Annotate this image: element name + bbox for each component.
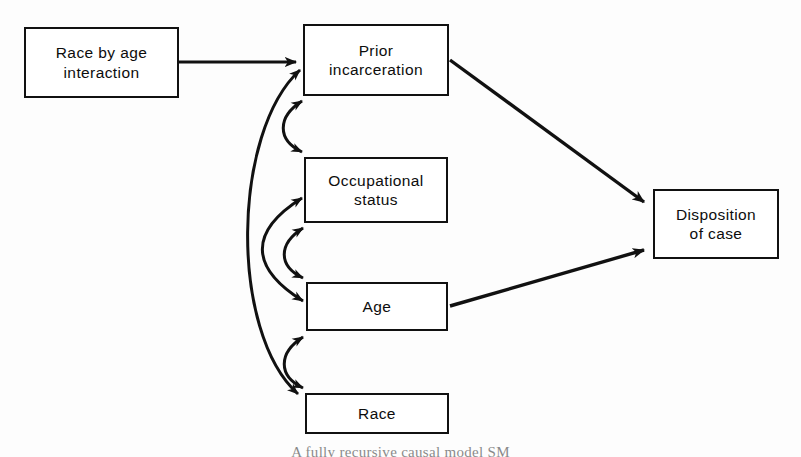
node-label-prior-incarceration: Prior incarceration [325,41,427,80]
figure-caption: A fully recursive causal model SM [0,441,801,457]
node-race-by-age-interaction[interactable]: Race by age interaction [24,27,179,98]
node-label-age: Age [359,297,396,316]
node-label-race-by-age-interaction: Race by age interaction [52,43,151,82]
figure-root: Race by age interaction Prior incarcerat… [0,0,801,457]
correlation-edges-group [248,70,303,394]
node-race[interactable]: Race [305,393,449,434]
node-disposition-of-case[interactable]: Disposition of case [653,189,779,259]
node-prior-incarceration[interactable]: Prior incarceration [303,24,449,96]
node-occupational-status[interactable]: Occupational status [304,157,448,223]
figure-caption-text: A fully recursive causal model SM [0,444,801,457]
node-label-occupational-status: Occupational status [324,171,427,210]
arc-occupational-status-age-long [262,198,303,301]
node-label-race: Race [354,404,400,423]
node-label-disposition-of-case: Disposition of case [672,205,760,244]
edge-age-to-disposition [450,250,644,306]
arc-prior-incarceration-occupational-status [283,101,302,152]
arc-occupational-status-age [284,228,303,278]
node-age[interactable]: Age [306,282,448,331]
edge-prior-incarceration-to-disposition [450,60,644,202]
